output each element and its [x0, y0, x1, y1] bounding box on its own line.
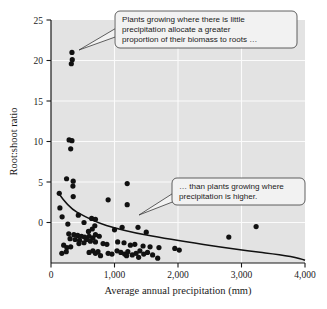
data-point	[156, 245, 161, 250]
data-point	[226, 234, 231, 239]
data-point	[121, 240, 126, 245]
x-tick-label-3000: 3,000	[231, 270, 253, 280]
data-point	[128, 243, 133, 248]
data-point	[109, 251, 114, 256]
data-point	[115, 239, 120, 244]
data-point	[132, 242, 137, 247]
data-point	[177, 247, 182, 252]
y-tick-label-15: 10	[34, 137, 44, 147]
data-point	[97, 234, 102, 239]
y-tick-label-10: 5	[38, 178, 43, 188]
callout-low-precipitation-line-3: proportion of their biomass to roots …	[122, 35, 257, 44]
data-point	[145, 250, 150, 255]
data-point	[73, 237, 78, 242]
data-point	[254, 224, 259, 229]
data-point	[69, 61, 74, 66]
callout-low-precipitation-line-2: precipitation allocate a greater	[122, 25, 231, 34]
data-point	[93, 239, 98, 244]
data-point	[71, 194, 76, 199]
callout-low-precipitation-line-1: Plants growing where there is little	[122, 15, 245, 24]
data-point	[71, 179, 76, 184]
y-tick-label-20: 15	[34, 97, 44, 107]
data-point	[59, 251, 64, 256]
data-point	[60, 214, 65, 219]
callout-high-precipitation-line-1: … than plants growing where	[179, 182, 284, 191]
data-point	[66, 231, 71, 236]
data-point	[98, 253, 103, 258]
x-axis-title: Average annual precipitation (mm)	[104, 285, 252, 297]
y-tick-label-25: 20	[34, 56, 44, 66]
x-tick-label-4000: 4,000	[294, 270, 316, 280]
x-tick-label-0: 0	[49, 270, 54, 280]
data-point	[70, 183, 75, 188]
data-point	[140, 243, 145, 248]
data-point	[106, 197, 111, 202]
data-point	[155, 256, 160, 261]
data-point	[172, 246, 177, 251]
data-point	[65, 222, 70, 227]
data-point	[69, 138, 74, 143]
data-point	[124, 253, 129, 258]
data-point	[67, 236, 72, 241]
y-tick-label-5: 0	[38, 218, 43, 228]
data-point	[150, 252, 155, 257]
data-point	[64, 249, 69, 254]
data-point	[57, 205, 62, 210]
y-tick-label-30: 25	[34, 16, 44, 26]
data-point	[68, 146, 73, 151]
data-point	[90, 226, 95, 231]
chart-canvas: 25 20 15 10 5 0 0 1,000 2,000 3,000 4,00…	[0, 0, 327, 309]
data-point	[81, 240, 86, 245]
data-point	[125, 181, 130, 186]
x-tick-label-1000: 1,000	[104, 270, 126, 280]
data-point	[64, 176, 69, 181]
data-point	[147, 244, 152, 249]
data-point	[136, 255, 141, 260]
data-point	[88, 239, 93, 244]
data-point	[69, 50, 74, 55]
y-axis-title: Root:shoot ratio	[8, 108, 19, 176]
data-point	[135, 225, 140, 230]
data-point	[125, 202, 130, 207]
x-tick-label-2000: 2,000	[167, 270, 189, 280]
data-point	[76, 241, 81, 246]
callout-high-precipitation-line-2: precipitation is higher.	[179, 192, 257, 201]
data-point	[81, 220, 86, 225]
scatter-plot-figure: 25 20 15 10 5 0 0 1,000 2,000 3,000 4,00…	[0, 0, 327, 309]
data-point	[104, 242, 109, 247]
data-point	[68, 244, 73, 249]
